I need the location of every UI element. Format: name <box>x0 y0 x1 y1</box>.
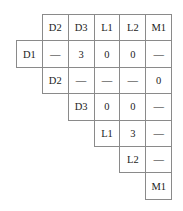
row-label: D3 <box>68 93 95 120</box>
matrix-cell: 0 <box>119 93 146 120</box>
row-label: D1 <box>16 40 43 67</box>
row-label: M1 <box>145 172 172 199</box>
matrix-cell: — <box>94 67 121 94</box>
matrix-cell: — <box>145 146 172 173</box>
column-header: D3 <box>68 14 95 41</box>
row-label: D2 <box>42 67 69 94</box>
matrix-cell: 3 <box>119 120 146 147</box>
column-header: L2 <box>119 14 146 41</box>
column-header: L1 <box>94 14 121 41</box>
matrix-cell: 0 <box>119 40 146 67</box>
matrix-cell: — <box>68 67 95 94</box>
matrix-cell: 3 <box>68 40 95 67</box>
matrix-cell: 0 <box>145 67 172 94</box>
matrix-cell: 0 <box>94 93 121 120</box>
matrix-cell: — <box>145 120 172 147</box>
row-label: L1 <box>94 120 121 147</box>
matrix-cell: — <box>42 40 69 67</box>
column-header: D2 <box>42 14 69 41</box>
matrix-cell: — <box>119 67 146 94</box>
matrix-cell: — <box>145 40 172 67</box>
matrix-cell: — <box>145 93 172 120</box>
column-header: M1 <box>145 14 172 41</box>
matrix-cell: 0 <box>94 40 121 67</box>
row-label: L2 <box>119 146 146 173</box>
